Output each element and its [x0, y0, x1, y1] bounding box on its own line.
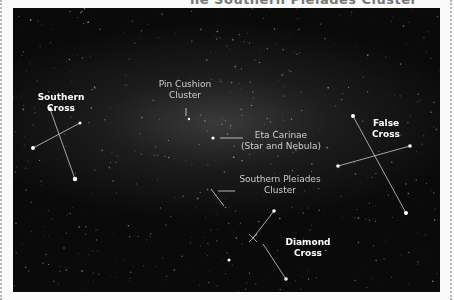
- label-line: Southern Pleiades: [235, 174, 325, 185]
- label-line: Southern: [36, 92, 86, 103]
- night-sky-photo: Southern Cross Pin Cushion Cluster Eta C…: [13, 8, 440, 292]
- label-line: (Star and Nebula): [241, 141, 321, 152]
- label-line: Diamond: [283, 237, 333, 248]
- label-line: Eta Carinae: [241, 130, 321, 141]
- label-eta-carinae: Eta Carinae (Star and Nebula): [241, 130, 321, 152]
- label-pin-cushion: Pin Cushion Cluster: [150, 79, 220, 101]
- label-line: False: [368, 118, 404, 129]
- diamond-cross-lines: [249, 211, 286, 279]
- label-line: Cross: [36, 103, 86, 114]
- label-diamond-cross: Diamond Cross: [283, 237, 333, 259]
- label-false-cross: False Cross: [368, 118, 404, 140]
- label-line: Cross: [368, 129, 404, 140]
- southern-cross-lines: [33, 109, 80, 179]
- left-border: [0, 0, 4, 300]
- label-line: Pin Cushion: [150, 79, 220, 90]
- star-field: [13, 8, 440, 292]
- right-border: [450, 0, 454, 300]
- label-line: Cluster: [150, 90, 220, 101]
- label-line: Cross: [283, 248, 333, 259]
- label-southern-pleiades: Southern Pleiades Cluster: [235, 174, 325, 196]
- figure-caption: he Southern Pleiades Cluster: [190, 0, 450, 7]
- label-southern-cross: Southern Cross: [36, 92, 86, 114]
- label-line: Cluster: [235, 185, 325, 196]
